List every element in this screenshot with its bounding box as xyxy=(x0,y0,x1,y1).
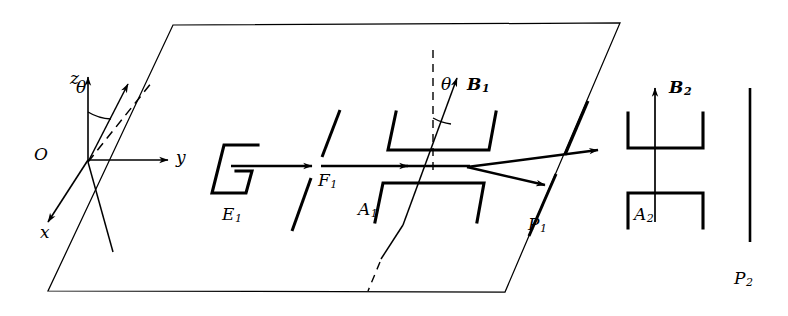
field-label-B1-sub: 1 xyxy=(481,82,489,95)
component-label-A2-base: A xyxy=(634,204,646,224)
slit-F1-shape xyxy=(292,110,340,231)
theta-arc-origin xyxy=(88,112,111,119)
source-E1-shape xyxy=(212,145,258,193)
field-label-B2-base: B xyxy=(669,77,683,97)
field-direction-at-origin xyxy=(88,82,152,252)
field-label-B1-base: B xyxy=(467,74,481,94)
component-label-F1-sub: 1 xyxy=(330,178,338,191)
component-label-A1-sub: 1 xyxy=(370,207,378,220)
slit-F1-upper-blade xyxy=(322,110,340,157)
x-axis xyxy=(48,160,88,222)
component-label-P2-sub: 2 xyxy=(745,276,753,289)
component-label-E1-base: E xyxy=(222,204,234,224)
component-label-P2-base: P xyxy=(734,268,745,288)
component-label-E1-sub: 1 xyxy=(234,212,242,225)
component-label-F1-base: F xyxy=(318,170,330,190)
field-B1-line-lower xyxy=(381,225,403,259)
component-label-P1: P1 xyxy=(528,216,547,234)
component-label-P1-base: P xyxy=(528,214,539,234)
component-label-E1: E1 xyxy=(222,206,242,224)
axis-label-x: x xyxy=(40,224,50,241)
slit-F1-lower-blade xyxy=(292,178,311,231)
component-label-A1-base: A xyxy=(358,199,370,219)
component-label-A2: A2 xyxy=(634,206,654,224)
projection-dashed-origin xyxy=(88,82,152,162)
b-direction-arrow-origin xyxy=(88,84,128,162)
axis-label-y: y xyxy=(176,149,186,166)
analyzer-A1-lower-pole xyxy=(375,183,484,222)
analyzer-A2-upper-pole xyxy=(628,113,703,148)
component-label-F1: F1 xyxy=(318,172,337,190)
field-B1-dashed-to-plane xyxy=(368,262,380,291)
component-label-P2: P2 xyxy=(734,270,753,288)
b-direction-continuation-lower xyxy=(88,162,113,252)
figure-canvas: z y x O θ θ E1 F1 A1 P1 A2 P2 B1 B2 xyxy=(0,0,788,316)
slit-P1-upper-blade xyxy=(565,101,588,155)
origin-label: O xyxy=(34,146,48,163)
field-label-B2-sub: 2 xyxy=(683,85,691,98)
field-label-B2: B2 xyxy=(669,79,692,97)
component-label-P1-sub: 1 xyxy=(539,222,547,235)
particle-beam xyxy=(231,150,598,185)
coordinate-axes xyxy=(48,77,168,222)
theta-label-origin: θ xyxy=(76,79,86,96)
beam-ray-upper xyxy=(467,150,598,167)
physics-diagram-svg xyxy=(0,0,788,316)
theta-label-field: θ xyxy=(441,76,451,93)
component-label-A2-sub: 2 xyxy=(646,212,654,225)
component-label-A1: A1 xyxy=(358,201,378,219)
field-label-B1: B1 xyxy=(467,76,490,94)
